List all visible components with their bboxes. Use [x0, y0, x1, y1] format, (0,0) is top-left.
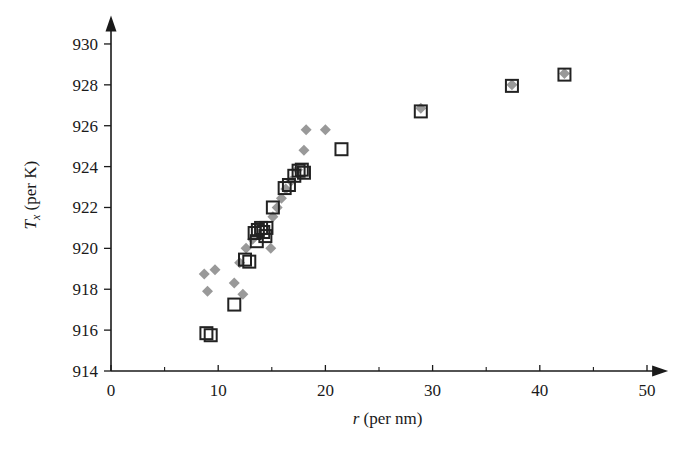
tick-marks [104, 44, 647, 371]
x-tick-label-50: 50 [639, 381, 656, 400]
diamond-marker [301, 124, 312, 135]
y-axis-title: Tx (per K) [21, 161, 43, 230]
diamond-marker [272, 202, 283, 213]
diamond-marker [229, 278, 240, 289]
y-tick-label-922: 922 [73, 198, 99, 217]
diamond-marker [265, 243, 276, 254]
x-tick-label-20: 20 [317, 381, 334, 400]
y-tick-label-928: 928 [73, 76, 99, 95]
diamond-marker [209, 264, 220, 275]
diamond-marker [199, 268, 210, 279]
y-tick-label-924: 924 [73, 158, 99, 177]
y-tick-label-926: 926 [73, 117, 99, 136]
y-tick-label-930: 930 [73, 35, 99, 54]
data-markers [199, 68, 571, 341]
diamond-marker [506, 79, 517, 90]
plot-canvas: 91491691892092292492692893001020304050 r… [0, 0, 688, 451]
y-tick-label-920: 920 [73, 239, 99, 258]
diamond-marker [202, 286, 213, 297]
axes [106, 15, 669, 376]
square-marker [228, 299, 240, 311]
diamond-marker [559, 68, 570, 79]
tick-labels: 91491691892092292492692893001020304050 [73, 35, 656, 400]
diamond-marker [298, 145, 309, 156]
y-tick-label-914: 914 [73, 362, 99, 381]
diamond-marker [320, 124, 331, 135]
x-tick-label-10: 10 [210, 381, 227, 400]
x-axis-arrowhead [652, 366, 668, 377]
y-axis-arrowhead [106, 15, 117, 31]
x-tick-label-0: 0 [107, 381, 116, 400]
y-axis-title-units: (per K) [21, 161, 40, 215]
x-axis-title-units: (per nm) [359, 409, 422, 428]
scatter-plot-figure: 91491691892092292492692893001020304050 r… [0, 0, 688, 451]
y-tick-label-916: 916 [73, 321, 99, 340]
y-tick-label-918: 918 [73, 280, 99, 299]
x-tick-label-30: 30 [424, 381, 441, 400]
x-axis-title: r (per nm) [353, 409, 423, 428]
x-tick-label-40: 40 [531, 381, 548, 400]
diamond-marker [280, 184, 291, 195]
square-marker [335, 143, 347, 155]
